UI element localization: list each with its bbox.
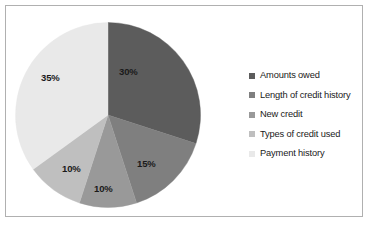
legend-swatch-icon	[249, 73, 255, 79]
legend-swatch-icon	[249, 92, 255, 98]
chart-legend: Amounts owedLength of credit historyNew …	[249, 66, 361, 164]
legend-swatch-icon	[249, 112, 255, 118]
pie-slice-value-label: 10%	[62, 163, 81, 174]
legend-item-label: Types of credit used	[260, 130, 340, 139]
pie-slice-group	[16, 23, 201, 208]
pie-chart-graphic	[15, 22, 201, 208]
legend-item: Types of credit used	[249, 125, 361, 145]
legend-item-label: Length of credit history	[260, 91, 350, 100]
pie-slice-value-label: 30%	[119, 66, 138, 77]
legend-swatch-icon	[249, 131, 255, 137]
legend-item: New credit	[249, 105, 361, 125]
legend-swatch-icon	[249, 151, 255, 157]
legend-item: Payment history	[249, 144, 361, 164]
pie-chart-plot-area: 30%15%10%10%35% Amounts owedLength of cr…	[0, 0, 370, 227]
legend-item: Length of credit history	[249, 86, 361, 106]
legend-item-label: Payment history	[260, 149, 324, 158]
pie-slice-value-label: 10%	[94, 183, 113, 194]
legend-item-label: Amounts owed	[260, 71, 320, 80]
legend-item: Amounts owed	[249, 66, 361, 86]
legend-item-label: New credit	[260, 110, 302, 119]
pie-slice-value-label: 35%	[41, 72, 60, 83]
pie-slice-value-label: 15%	[137, 158, 156, 169]
